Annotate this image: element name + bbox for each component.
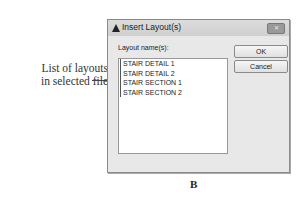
- list-item[interactable]: STAIR DETAIL 1: [119, 59, 227, 69]
- callout-annotation: List of layouts in selected file: [12, 62, 108, 88]
- insert-layouts-dialog: Insert Layout(s) ✕ Layout name(s): STAIR…: [107, 19, 290, 173]
- layout-names-label: Layout name(s):: [118, 44, 169, 51]
- cancel-button[interactable]: Cancel: [234, 60, 288, 73]
- list-item[interactable]: STAIR DETAIL 2: [119, 69, 227, 79]
- figure-label: B: [190, 178, 197, 190]
- callout-line-1: List of layouts: [12, 62, 108, 75]
- autocad-logo-icon: [112, 24, 120, 32]
- layout-list[interactable]: STAIR DETAIL 1 STAIR DETAIL 2 STAIR SECT…: [118, 58, 228, 154]
- callout-line-2: in selected file: [12, 75, 108, 88]
- ok-button[interactable]: OK: [234, 45, 288, 58]
- list-item[interactable]: STAIR SECTION 2: [119, 88, 227, 98]
- close-button[interactable]: ✕: [267, 23, 285, 34]
- dialog-titlebar[interactable]: Insert Layout(s) ✕: [108, 20, 289, 36]
- list-item[interactable]: STAIR SECTION 1: [119, 78, 227, 88]
- dialog-title: Insert Layout(s): [122, 22, 181, 32]
